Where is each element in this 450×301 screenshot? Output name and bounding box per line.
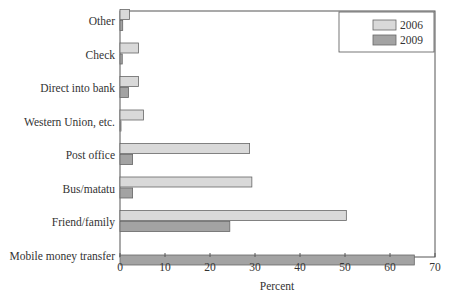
- bar-2009-check: [120, 54, 122, 64]
- x-tick-label: 70: [429, 261, 441, 273]
- bar-2009-bus-matatu: [120, 188, 133, 198]
- category-label: Other: [89, 15, 115, 27]
- legend-frame: [339, 12, 434, 52]
- legend-label-2009: 2009: [400, 34, 423, 46]
- x-tick-label: 60: [384, 261, 396, 273]
- x-tick-label: 30: [249, 261, 261, 273]
- bar-2009-other: [120, 21, 123, 31]
- bar-2009-direct-into-bank: [120, 88, 129, 98]
- category-label: Direct into bank: [40, 82, 115, 94]
- bar-2006-direct-into-bank: [120, 77, 138, 87]
- bar-chart: OtherCheckDirect into bankWestern Union,…: [0, 0, 450, 301]
- bar-2009-post-office: [120, 155, 133, 165]
- bar-2009-western-union-etc-: [120, 121, 121, 131]
- x-tick-label: 10: [159, 261, 171, 273]
- category-label: Friend/family: [52, 216, 115, 229]
- x-tick-label: 20: [204, 261, 216, 273]
- category-label: Mobile money transfer: [10, 250, 116, 263]
- bar-2006-other: [120, 10, 129, 20]
- bar-2006-western-union-etc-: [120, 110, 143, 120]
- bar-2006-check: [120, 43, 138, 53]
- x-tick-label: 0: [117, 261, 123, 273]
- legend-label-2006: 2006: [400, 19, 423, 31]
- category-label: Western Union, etc.: [24, 116, 115, 129]
- category-label: Check: [86, 49, 116, 61]
- legend-swatch-2006: [373, 20, 396, 30]
- x-tick-label: 50: [339, 261, 351, 273]
- bar-2006-friend-family: [120, 211, 346, 221]
- x-tick-label: 40: [294, 261, 306, 273]
- legend: 20062009: [339, 12, 434, 52]
- x-axis-label: Percent: [260, 280, 295, 292]
- category-label: Post office: [66, 149, 115, 161]
- bar-2006-bus-matatu: [120, 177, 252, 187]
- category-label: Bus/matatu: [63, 183, 116, 195]
- legend-swatch-2009: [373, 35, 396, 45]
- bar-2006-post-office: [120, 144, 250, 154]
- bar-2009-friend-family: [120, 222, 230, 232]
